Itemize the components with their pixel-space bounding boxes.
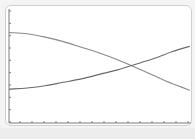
series-group [9, 33, 190, 91]
x-axis [9, 121, 191, 123]
line-chart [0, 0, 195, 139]
decreasing-curve-line [9, 33, 190, 91]
y-axis [9, 9, 11, 123]
